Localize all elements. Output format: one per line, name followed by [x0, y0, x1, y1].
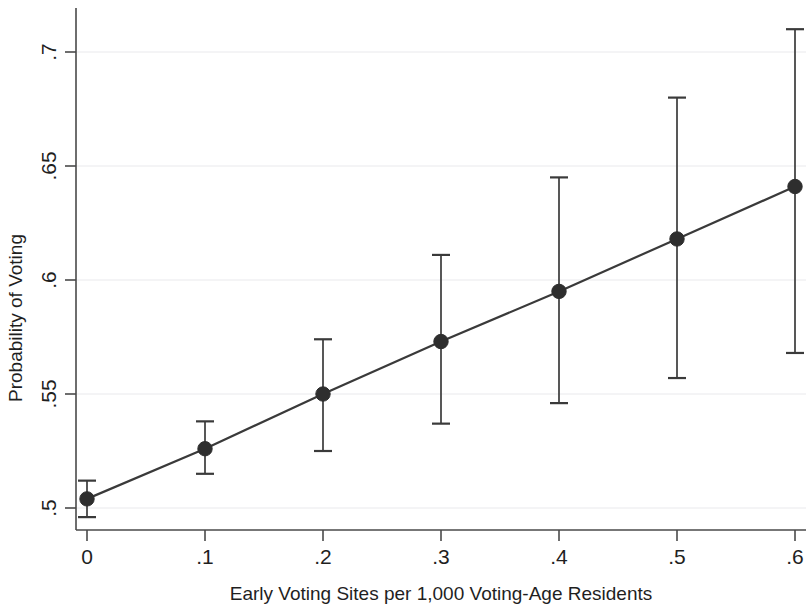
x-tick-label-6: .6 — [786, 545, 804, 568]
y-tick-label-2: .6 — [37, 271, 60, 289]
y-tick-label-3: .65 — [37, 151, 60, 180]
y-tick-label-1: .55 — [37, 379, 60, 408]
x-tick-label-1: .1 — [196, 545, 214, 568]
chart-background — [0, 0, 810, 613]
data-point-marker-5 — [670, 232, 684, 246]
data-point-marker-6 — [788, 179, 802, 193]
x-tick-label-2: .2 — [314, 545, 332, 568]
y-tick-label-0: .5 — [37, 499, 60, 517]
data-point-marker-2 — [316, 387, 330, 401]
data-point-marker-3 — [434, 334, 448, 348]
y-tick-label-4: .7 — [37, 43, 60, 61]
x-axis-title: Early Voting Sites per 1,000 Voting-Age … — [230, 583, 652, 604]
data-point-marker-4 — [552, 284, 566, 298]
data-point-marker-1 — [198, 442, 212, 456]
probability-of-voting-line-chart: .5.55.6.65.7 0.1.2.3.4.5.6 Probability o… — [0, 0, 810, 613]
x-tick-label-0: 0 — [81, 545, 93, 568]
x-tick-label-4: .4 — [550, 545, 568, 568]
x-tick-label-3: .3 — [432, 545, 450, 568]
chart-figure: .5.55.6.65.7 0.1.2.3.4.5.6 Probability o… — [0, 0, 810, 613]
data-point-marker-0 — [80, 492, 94, 506]
x-tick-label-5: .5 — [668, 545, 686, 568]
y-axis-title: Probability of Voting — [5, 234, 26, 402]
